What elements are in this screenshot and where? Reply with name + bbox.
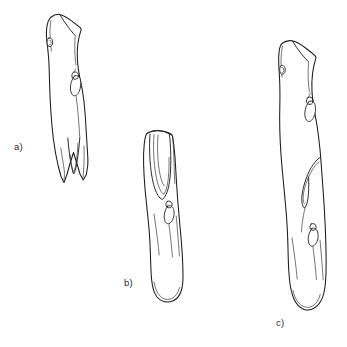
panel-label-c: c): [276, 318, 284, 328]
panel-label-b: b): [124, 278, 133, 288]
panel-label-a: a): [14, 142, 23, 152]
figure-panel: a) b) c): [0, 0, 347, 347]
artifact-drawing-svg: [0, 0, 347, 347]
